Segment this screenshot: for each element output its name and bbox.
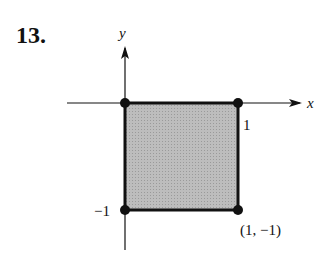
diagram: x y 1 −1 (1, −1) <box>0 0 335 253</box>
point-1-0 <box>233 98 243 108</box>
point-origin <box>120 98 130 108</box>
tick-label-1: 1 <box>243 117 251 133</box>
point-0-neg1 <box>120 205 130 215</box>
y-label: y <box>117 25 126 41</box>
x-label: x <box>306 95 314 111</box>
tick-label-neg1: −1 <box>94 203 110 219</box>
point-label: (1, −1) <box>240 222 281 239</box>
shaded-square <box>125 103 238 210</box>
point-1-neg1 <box>233 205 243 215</box>
